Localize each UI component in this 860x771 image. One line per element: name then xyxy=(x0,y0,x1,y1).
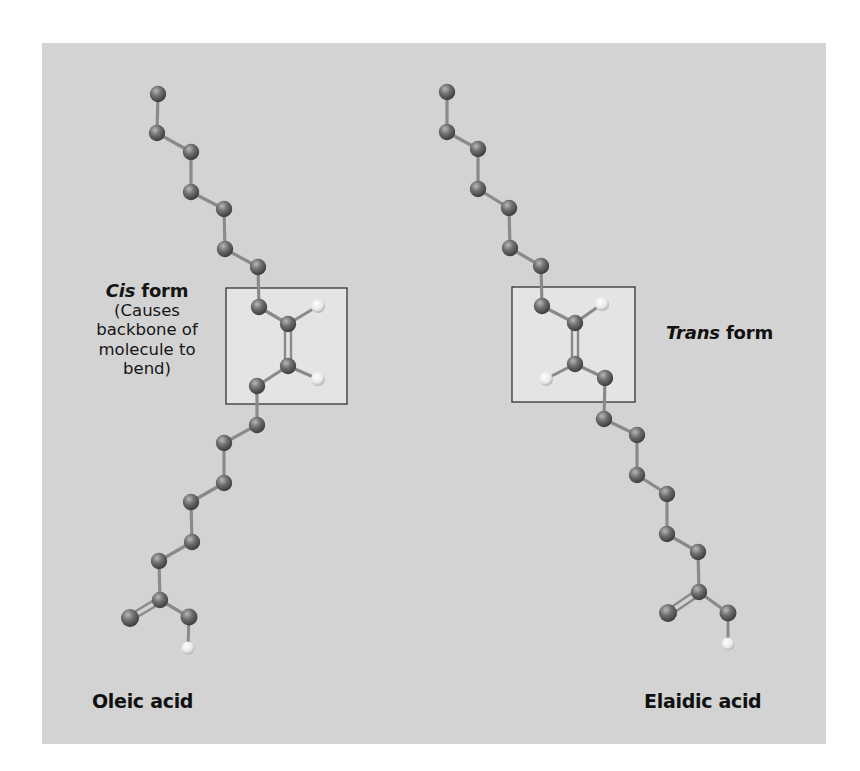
carbon-atom xyxy=(533,258,549,274)
carbon-atom xyxy=(470,141,486,157)
oxygen-atom xyxy=(121,609,139,627)
hydrogen-atom xyxy=(595,297,609,311)
carbon-atom xyxy=(439,84,455,100)
carbon-atom xyxy=(629,467,645,483)
elaidic-acid-molecule xyxy=(439,84,737,651)
oxygen-atom xyxy=(659,604,677,622)
cis-form-description-line: bend) xyxy=(84,359,210,379)
cis-form-suffix: form xyxy=(135,280,188,301)
oxygen-atom xyxy=(720,605,737,622)
cis-form-description-line: molecule to xyxy=(84,340,210,360)
carbon-atom xyxy=(439,124,455,140)
carbon-atom xyxy=(183,184,199,200)
carbon-atom xyxy=(280,316,296,332)
carbon-atom xyxy=(151,553,167,569)
carbon-atom xyxy=(251,299,267,315)
molecule-diagram xyxy=(0,0,860,771)
carbon-atom xyxy=(501,200,517,216)
carbon-atom xyxy=(659,486,675,502)
double-bond-highlight-box xyxy=(512,287,635,402)
carbon-atom xyxy=(216,435,232,451)
carbon-atom xyxy=(152,592,168,608)
carbon-atom xyxy=(567,315,583,331)
hydrogen-atom xyxy=(722,638,735,651)
cis-form-title: Cis form xyxy=(84,281,210,301)
cis-form-annotation: Cis form (Causes backbone of molecule to… xyxy=(84,281,210,379)
hydrogen-atom xyxy=(311,299,325,313)
carbon-atom xyxy=(249,417,265,433)
oleic-acid-label: Oleic acid xyxy=(92,690,193,712)
carbon-atom xyxy=(567,356,583,372)
carbon-atom xyxy=(629,427,645,443)
trans-form-suffix: form xyxy=(720,322,773,343)
carbon-atom xyxy=(184,534,200,550)
carbon-atom xyxy=(690,544,706,560)
double-bond-highlight-box xyxy=(226,288,347,404)
carbon-atom xyxy=(217,241,233,257)
cis-form-description-line: backbone of xyxy=(84,320,210,340)
carbon-atom xyxy=(216,201,232,217)
hydrogen-atom xyxy=(182,642,195,655)
carbon-atom xyxy=(250,259,266,275)
carbon-atom xyxy=(149,125,165,141)
carbon-atom xyxy=(596,411,612,427)
cis-form-description-line: (Causes xyxy=(84,301,210,321)
carbon-atom xyxy=(249,378,265,394)
carbon-atom xyxy=(597,370,613,386)
carbon-atom xyxy=(470,181,486,197)
carbon-atom xyxy=(280,358,296,374)
hydrogen-atom xyxy=(539,372,553,386)
carbon-atom xyxy=(183,144,199,160)
carbon-atom xyxy=(183,494,199,510)
carbon-atom xyxy=(502,240,518,256)
trans-form-title: Trans form xyxy=(666,322,773,343)
carbon-atom xyxy=(691,584,707,600)
trans-form-emphasis: Trans xyxy=(666,322,720,343)
carbon-atom xyxy=(534,298,550,314)
hydrogen-atom xyxy=(311,372,325,386)
cis-form-emphasis: Cis xyxy=(106,280,136,301)
elaidic-acid-label: Elaidic acid xyxy=(644,690,761,712)
carbon-atom xyxy=(216,475,232,491)
carbon-atom xyxy=(659,526,675,542)
oxygen-atom xyxy=(181,609,198,626)
carbon-atom xyxy=(150,86,166,102)
